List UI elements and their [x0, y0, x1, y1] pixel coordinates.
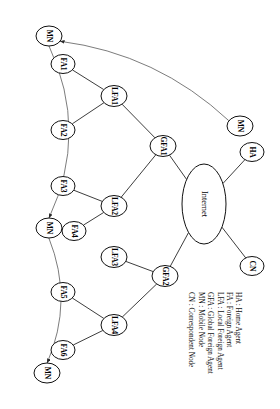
node-mn2[interactable]: MN — [36, 218, 62, 238]
link-fa1-lfa1 — [72, 70, 103, 90]
node-label-mn1: MN — [45, 30, 54, 43]
legend: HA : Home AgentFA : Foreign AgentLFA : L… — [187, 292, 242, 374]
node-label-lfa3: LFA3 — [110, 248, 119, 266]
internet-label: Internet — [200, 191, 209, 218]
node-label-gfa2: GFA2 — [161, 267, 170, 286]
link-ha-internet — [223, 160, 245, 184]
link-fa6-lfa4 — [73, 330, 103, 345]
internet-cloud: Internet — [182, 164, 226, 244]
node-fa4[interactable]: FA4 — [62, 222, 86, 241]
node-label-fa6: FA6 — [59, 343, 68, 356]
node-label-fa3: FA3 — [59, 179, 68, 192]
link-fa4-lfa2 — [83, 212, 103, 225]
node-mn3[interactable]: MN — [34, 363, 60, 383]
link-fa5-lfa4 — [72, 298, 104, 318]
node-label-fa2: FA2 — [59, 123, 68, 136]
node-fa1[interactable]: FA1 — [51, 55, 75, 74]
link-lfa2-gfa1 — [121, 155, 156, 197]
link-gfa2-internet — [170, 233, 188, 267]
node-label-cn: CN — [248, 261, 257, 272]
node-fa5[interactable]: FA5 — [51, 283, 75, 302]
network-diagram: Internet MNFA1FA2FA3MNFA4FA5FA6MNLFA1LFA… — [0, 0, 280, 409]
node-mn1[interactable]: MN — [36, 26, 62, 46]
legend-item-1: FA : Foreign Agent — [225, 292, 233, 347]
node-lfa1[interactable]: LFA1 — [101, 86, 127, 107]
movement-arc-mn4-mn1 — [60, 41, 229, 121]
node-lfa4[interactable]: LFA4 — [101, 315, 127, 336]
legend-item-5: CN : Correspondent Node — [187, 292, 195, 367]
link-fa2-lfa1 — [72, 103, 104, 124]
legend-item-4: MN : Mobile Node — [197, 292, 205, 347]
node-label-fa1: FA1 — [59, 57, 68, 70]
node-mn4[interactable]: MN — [227, 116, 253, 136]
node-label-ha: HA — [248, 146, 257, 158]
node-fa6[interactable]: FA6 — [51, 341, 75, 360]
link-lfa3-gfa2 — [126, 261, 153, 271]
legend-item-3: GFA : Global Foreign Agent — [206, 292, 214, 374]
link-cn-internet — [222, 227, 246, 258]
node-lfa3[interactable]: LFA3 — [101, 247, 127, 268]
node-cn[interactable]: CN — [240, 257, 264, 276]
node-label-gfa1: GFA1 — [159, 137, 168, 156]
node-label-lfa2: LFA2 — [110, 197, 119, 215]
node-label-mn3: MN — [43, 367, 52, 380]
node-gfa2[interactable]: GFA2 — [152, 266, 178, 287]
node-label-mn4: MN — [236, 120, 245, 133]
node-fa2[interactable]: FA2 — [51, 121, 75, 140]
node-label-fa5: FA5 — [59, 285, 68, 298]
link-fa3-lfa2 — [74, 190, 103, 201]
link-gfa1-internet — [169, 155, 186, 179]
node-label-lfa1: LFA1 — [110, 87, 119, 105]
node-label-lfa4: LFA4 — [110, 316, 119, 334]
node-label-mn2: MN — [45, 222, 54, 235]
legend-item-2: LFA : Local Foreign Agent — [216, 292, 224, 370]
node-fa3[interactable]: FA3 — [51, 177, 75, 196]
node-label-fa4: FA4 — [70, 224, 79, 237]
link-lfa4-gfa2 — [122, 284, 156, 317]
figure-root: Internet MNFA1FA2FA3MNFA4FA5FA6MNLFA1LFA… — [0, 0, 280, 409]
legend-item-0: HA : Home Agent — [234, 292, 242, 344]
node-gfa1[interactable]: GFA1 — [150, 136, 176, 157]
link-lfa1-gfa1 — [122, 104, 155, 138]
node-ha[interactable]: HA — [240, 143, 264, 162]
node-lfa2[interactable]: LFA2 — [101, 196, 127, 217]
